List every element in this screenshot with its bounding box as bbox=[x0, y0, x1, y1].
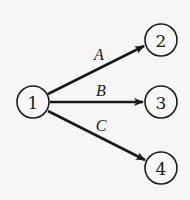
edge-c-label: C bbox=[96, 117, 107, 134]
edge-c: C bbox=[48, 111, 145, 160]
node-4: 4 bbox=[145, 152, 177, 184]
node-4-label: 4 bbox=[156, 159, 167, 179]
node-2: 2 bbox=[145, 24, 177, 56]
node-2-label: 2 bbox=[156, 31, 167, 51]
edge-b-label: B bbox=[96, 82, 106, 99]
graph-svg: A B C 1 2 3 4 bbox=[0, 0, 190, 200]
node-3-label: 3 bbox=[156, 93, 167, 113]
node-1-label: 1 bbox=[28, 93, 39, 113]
edge-a-label: A bbox=[93, 46, 104, 63]
node-3: 3 bbox=[145, 86, 177, 118]
node-1: 1 bbox=[17, 86, 49, 118]
diagram-canvas: A B C 1 2 3 4 bbox=[0, 0, 190, 200]
